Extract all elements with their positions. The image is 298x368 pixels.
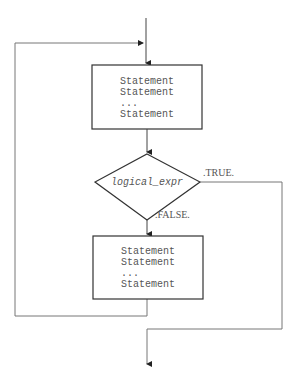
- block1-line-1: Statement: [120, 76, 174, 87]
- block1-line-3: ...: [120, 98, 138, 109]
- condition-label: logical_expr: [111, 177, 183, 188]
- flowchart: Statement Statement ... Statement logica…: [0, 0, 298, 368]
- statement-block-2: Statement Statement ... Statement: [93, 236, 203, 299]
- statement-block-1: Statement Statement ... Statement: [92, 65, 202, 129]
- block2-line-2: Statement: [121, 257, 175, 268]
- block2-line-4: Statement: [121, 279, 175, 290]
- block1-line-4: Statement: [120, 109, 174, 120]
- block2-line-1: Statement: [121, 246, 175, 257]
- true-label: .TRUE.: [203, 167, 234, 178]
- block2-line-3: ...: [121, 268, 139, 279]
- false-label: .FALSE.: [155, 209, 190, 220]
- block1-line-2: Statement: [120, 87, 174, 98]
